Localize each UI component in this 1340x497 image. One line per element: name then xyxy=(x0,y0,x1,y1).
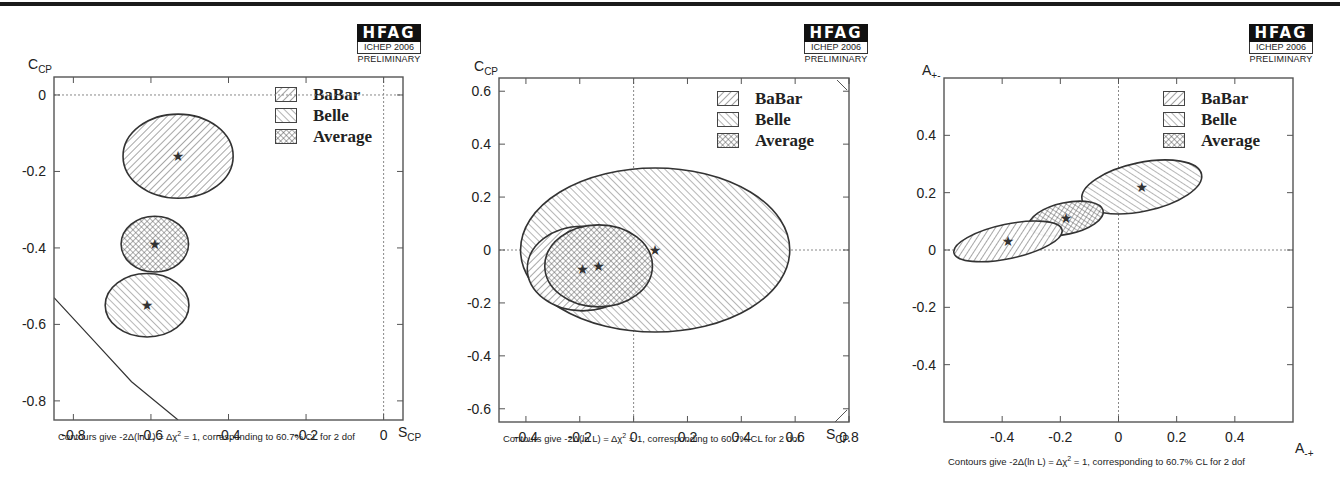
y-tick-label: -0.8 xyxy=(22,393,46,409)
x-tick-label: 0.6 xyxy=(785,429,805,445)
x-tick-label: 0 xyxy=(380,427,388,443)
x-tick-label: -0.2 xyxy=(568,429,592,445)
x-tick-label: 0.2 xyxy=(1167,429,1187,445)
central-value-star-icon: ★ xyxy=(1002,233,1015,249)
x-tick-label: 0.4 xyxy=(732,429,752,445)
x-tick-label: 0.4 xyxy=(1225,429,1245,445)
x-tick-label: 0.2 xyxy=(678,429,698,445)
y-tick-label: -0.4 xyxy=(912,357,936,373)
central-value-star-icon: ★ xyxy=(1060,210,1073,226)
x-tick-label: 0 xyxy=(1115,429,1123,445)
y-tick-label: 0.2 xyxy=(917,185,937,201)
plots-canvas: ★★★-0.8-0.6-0.4-0.200-0.2-0.4-0.6-0.8★★★… xyxy=(0,0,1340,497)
central-value-star-icon: ★ xyxy=(576,261,589,277)
x-tick-label: -0.2 xyxy=(294,427,318,443)
y-tick-label: 0.4 xyxy=(917,127,937,143)
x-tick-label: 0.8 xyxy=(839,429,859,445)
out-of-range-arrow-icon xyxy=(835,410,847,422)
x-tick-label: -0.4 xyxy=(990,429,1014,445)
y-tick-label: 0.2 xyxy=(472,189,492,205)
y-tick-label: 0.6 xyxy=(472,83,492,99)
out-of-range-arrow-icon xyxy=(837,80,847,90)
y-tick-label: 0 xyxy=(38,87,46,103)
central-value-star-icon: ★ xyxy=(141,297,154,313)
x-tick-label: -0.8 xyxy=(61,427,85,443)
y-tick-label: 0 xyxy=(483,242,491,258)
y-tick-label: -0.6 xyxy=(22,316,46,332)
plot-area-2: ★★★-0.4-0.200.20.40.60.80.60.40.20-0.2-0… xyxy=(467,78,859,445)
plot-area-3: ★★★-0.4-0.200.20.40.40.20-0.2-0.4 xyxy=(912,78,1293,445)
x-tick-label: -0.2 xyxy=(1048,429,1072,445)
central-value-star-icon: ★ xyxy=(149,236,162,252)
y-tick-label: -0.4 xyxy=(22,240,46,256)
x-tick-label: -0.4 xyxy=(216,427,240,443)
y-tick-label: -0.4 xyxy=(467,348,491,364)
plot-frame xyxy=(54,77,403,420)
y-tick-label: -0.6 xyxy=(467,401,491,417)
central-value-star-icon: ★ xyxy=(172,148,185,164)
y-tick-label: 0 xyxy=(928,242,936,258)
x-tick-label: -0.4 xyxy=(514,429,538,445)
y-tick-label: -0.2 xyxy=(22,163,46,179)
central-value-star-icon: ★ xyxy=(1135,179,1148,195)
y-tick-label: 0.4 xyxy=(472,136,492,152)
central-value-star-icon: ★ xyxy=(592,258,605,274)
x-tick-label: -0.6 xyxy=(139,427,163,443)
central-value-star-icon: ★ xyxy=(649,242,662,258)
y-tick-label: -0.2 xyxy=(467,295,491,311)
y-tick-label: -0.2 xyxy=(912,299,936,315)
plot-area-1: ★★★-0.8-0.6-0.4-0.200-0.2-0.4-0.6-0.8 xyxy=(22,77,403,443)
x-tick-label: 0 xyxy=(630,429,638,445)
